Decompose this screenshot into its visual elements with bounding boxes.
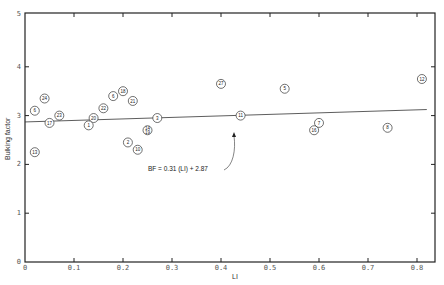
y-tick-label: 0 bbox=[17, 258, 21, 266]
annotation-arrow bbox=[224, 136, 235, 170]
point-label: 23 bbox=[57, 113, 63, 118]
data-point: 5 bbox=[280, 84, 289, 93]
y-axis-label: Bulking factor bbox=[4, 117, 12, 160]
point-label: 27 bbox=[218, 81, 224, 86]
point-label: 17 bbox=[47, 121, 53, 126]
y-tick-label: 1 bbox=[17, 209, 21, 217]
data-point: 23 bbox=[55, 111, 64, 120]
x-tick-label: 0 bbox=[23, 264, 27, 272]
data-point: 6 bbox=[109, 92, 118, 101]
point-label: 18 bbox=[120, 89, 126, 94]
data-point: 1 bbox=[84, 121, 93, 130]
x-tick-label: 0.7 bbox=[362, 264, 375, 272]
y-tick-label: 2 bbox=[17, 160, 21, 168]
x-tick-label: 0.5 bbox=[264, 264, 277, 272]
x-tick-label: 0.4 bbox=[215, 264, 228, 272]
x-tick-label: 0.8 bbox=[411, 264, 424, 272]
data-point: 12 bbox=[417, 75, 426, 84]
point-label: 24 bbox=[42, 96, 48, 101]
x-tick-label: 0.2 bbox=[117, 264, 130, 272]
data-point: 2 bbox=[123, 138, 132, 147]
point-label: 21 bbox=[130, 99, 136, 104]
data-point: 13 bbox=[30, 148, 39, 157]
point-label: 10 bbox=[135, 147, 141, 152]
point-label: 19 bbox=[145, 130, 151, 135]
data-point: 27 bbox=[217, 79, 226, 88]
point-label: 20 bbox=[91, 116, 97, 121]
fit-line bbox=[25, 110, 427, 122]
point-label: 16 bbox=[312, 128, 318, 133]
data-point: 10 bbox=[133, 145, 142, 154]
point-label: 11 bbox=[238, 113, 243, 118]
regression-equation: BF = 0.31 (LI) + 2.87 bbox=[148, 165, 208, 173]
x-axis-ticks: 00.10.20.30.40.50.60.70.8 bbox=[23, 13, 423, 272]
x-tick-label: 0.6 bbox=[313, 264, 326, 272]
point-label: 12 bbox=[419, 77, 425, 82]
regression-line bbox=[25, 110, 427, 122]
data-point: 11 bbox=[236, 111, 245, 120]
data-point: 3 bbox=[153, 114, 162, 123]
data-point: 22 bbox=[99, 104, 108, 113]
data-point: 21 bbox=[128, 96, 137, 105]
y-tick-label: 5 bbox=[17, 10, 21, 18]
y-axis-ticks: 012345 bbox=[17, 10, 435, 266]
data-point: 18 bbox=[119, 87, 128, 96]
scatter-chart: 00.10.20.30.40.50.60.70.8 012345 6241723… bbox=[0, 0, 444, 285]
point-label: 22 bbox=[101, 106, 107, 111]
y-tick-label: 3 bbox=[17, 112, 21, 120]
data-point: 17 bbox=[45, 118, 54, 127]
x-tick-label: 0.1 bbox=[68, 264, 81, 272]
data-point: 16 bbox=[310, 126, 319, 135]
data-point: 6 bbox=[30, 106, 39, 115]
arrowhead-icon bbox=[232, 132, 236, 137]
plot-frame bbox=[25, 13, 435, 262]
x-tick-label: 0.3 bbox=[166, 264, 179, 272]
data-point: 24 bbox=[40, 94, 49, 103]
point-label: 13 bbox=[32, 150, 38, 155]
axes-box bbox=[25, 13, 435, 262]
data-point: 8 bbox=[383, 123, 392, 132]
y-tick-label: 4 bbox=[17, 63, 21, 71]
data-point: 1419 bbox=[143, 126, 152, 135]
x-axis-label: LI bbox=[232, 273, 238, 280]
